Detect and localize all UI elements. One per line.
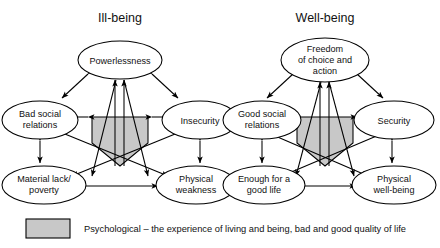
node-enough-good-life-label-2: good life <box>247 185 281 195</box>
node-good-social-relations-label-1: Good social <box>238 109 286 119</box>
node-physical-well-being[interactable]: Physical well-being <box>352 166 436 204</box>
node-good-social-relations[interactable]: Good social relations <box>223 101 301 139</box>
node-freedom-of-choice-and-action[interactable]: Freedom of choice and action <box>281 38 369 82</box>
panel-title-well-being: Well-being <box>296 11 355 25</box>
node-bad-social-relations-label-2: relations <box>23 120 58 130</box>
node-freedom-label-3: action <box>313 66 337 76</box>
node-powerlessness[interactable]: Powerlessness <box>78 41 162 79</box>
wellbeing-illbeing-diagram: Ill-being <box>0 0 440 248</box>
node-material-lack-label-1: Material lack/ <box>17 174 71 184</box>
edge-powerlessness-insecurity <box>152 74 178 98</box>
node-freedom-label-1: Freedom <box>307 44 343 54</box>
node-bad-social-relations-label-1: Bad social <box>19 109 61 119</box>
panel-title-ill-being: Ill-being <box>98 11 142 25</box>
edge-freedom-security <box>357 74 383 98</box>
figure-canvas: Ill-being <box>0 0 440 248</box>
node-material-lack-poverty[interactable]: Material lack/ poverty <box>2 166 86 204</box>
node-powerlessness-label-1: Powerlessness <box>89 56 151 66</box>
edge-powerlessness-bad-social <box>62 74 88 98</box>
panel-well-being: Well-being Freedom of choice and action <box>223 11 436 204</box>
node-good-social-relations-label-2: relations <box>245 120 280 130</box>
edge-freedom-good-social <box>267 74 293 98</box>
node-physical-weakness-label-1: Physical <box>179 174 213 184</box>
node-material-lack-label-2: poverty <box>29 185 59 195</box>
legend-label-psychological: Psychological – the experience of living… <box>84 224 406 234</box>
node-physical-well-being-label-1: Physical <box>377 174 411 184</box>
legend-swatch-psychological <box>26 219 70 238</box>
node-insecurity-label-1: Insecurity <box>181 116 220 126</box>
node-freedom-label-2: of choice and <box>298 55 352 65</box>
node-bad-social-relations[interactable]: Bad social relations <box>2 101 78 139</box>
node-security[interactable]: Security <box>354 101 434 139</box>
panel-ill-being: Ill-being <box>2 11 238 204</box>
node-physical-weakness-label-2: weakness <box>175 185 217 195</box>
node-security-label-1: Security <box>378 116 411 126</box>
legend: Psychological – the experience of living… <box>26 219 406 238</box>
node-physical-well-being-label-2: well-being <box>373 185 415 195</box>
node-enough-for-a-good-life[interactable]: Enough for a good life <box>223 166 305 204</box>
node-enough-good-life-label-1: Enough for a <box>238 174 291 184</box>
